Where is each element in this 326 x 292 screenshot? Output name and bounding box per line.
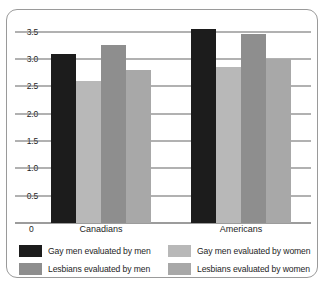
legend-item: Gay men evaluated by men xyxy=(19,245,168,257)
y-axis: 0.51.01.52.02.53.03.5 xyxy=(15,18,41,223)
legend-swatch xyxy=(19,245,42,257)
bar-group xyxy=(191,18,291,223)
bar xyxy=(266,59,291,223)
legend-label: Lesbians evaluated by men xyxy=(48,264,150,274)
legend-item: Lesbians evaluated by men xyxy=(19,263,168,275)
bar xyxy=(191,29,216,223)
legend-swatch xyxy=(168,263,191,275)
chart-legend: Gay men evaluated by menGay men evaluate… xyxy=(19,242,309,278)
bar xyxy=(51,54,76,223)
bar xyxy=(76,81,101,223)
legend-item: Lesbians evaluated by women xyxy=(168,263,309,275)
bar-group xyxy=(51,18,151,223)
x-axis-category-label: Canadians xyxy=(79,224,122,234)
bar xyxy=(241,34,266,223)
legend-label: Gay men evaluated by women xyxy=(197,246,310,256)
bars-layer xyxy=(41,18,311,223)
legend-swatch xyxy=(19,263,42,275)
x-axis-category-labels: 0 CanadiansAmericans xyxy=(15,224,311,238)
legend-swatch xyxy=(168,245,191,257)
legend-item: Gay men evaluated by women xyxy=(168,245,309,257)
bar xyxy=(101,45,126,223)
bar xyxy=(126,70,151,223)
chart-card: 0.51.01.52.02.53.03.5 0 CanadiansAmerica… xyxy=(6,9,318,278)
y-axis-zero-label: 0 xyxy=(29,224,34,234)
legend-label: Gay men evaluated by men xyxy=(48,246,151,256)
bar xyxy=(216,67,241,223)
plot-area: 0.51.01.52.02.53.03.5 xyxy=(15,18,311,223)
legend-label: Lesbians evaluated by women xyxy=(197,264,310,274)
x-axis-category-label: Americans xyxy=(220,224,263,234)
